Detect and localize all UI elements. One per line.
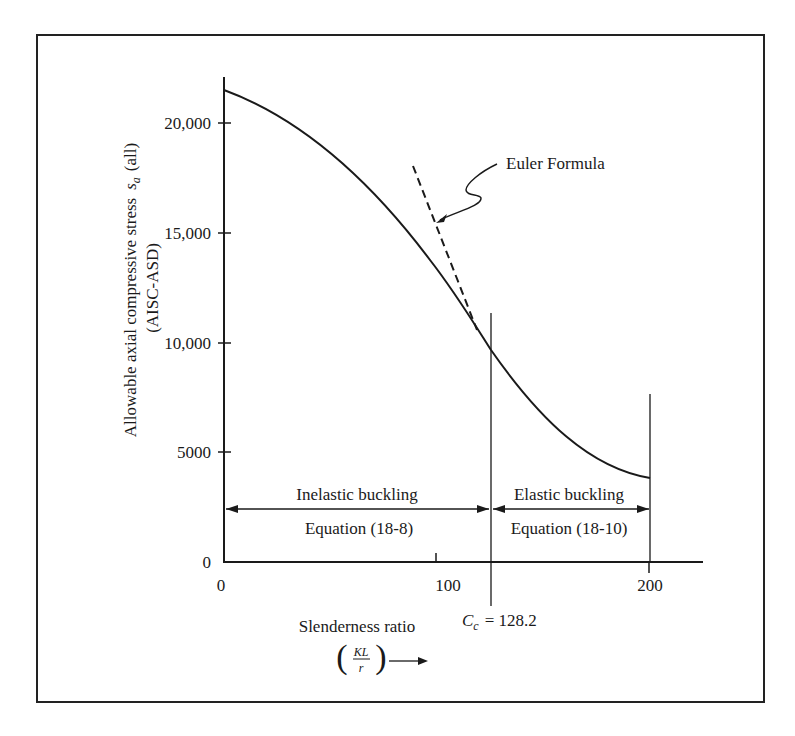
svg-text:r: r: [359, 661, 364, 675]
euler-curve-dashed: [413, 166, 477, 330]
x-direction-arrow: [389, 657, 428, 665]
figure-frame: [37, 35, 764, 702]
svg-text:): ): [375, 638, 386, 676]
cc-label: Cc= 128.2: [462, 611, 537, 633]
x-axis-title: Slenderness ratio: [299, 617, 416, 636]
axes: [223, 77, 703, 563]
euler-formula-label: Euler Formula: [506, 154, 605, 173]
inelastic-buckling-label: Inelastic buckling: [296, 485, 418, 504]
elastic-range-arrow: [493, 505, 649, 513]
y-tick-label-20000: 20,000: [164, 114, 211, 133]
y-axis-subtitle: (AISC-ASD): [143, 243, 162, 333]
elastic-equation-label: Equation (18-10): [511, 519, 628, 538]
svg-text:KL: KL: [353, 645, 369, 659]
allowable-stress-curve: [224, 90, 650, 478]
inelastic-equation-label: Equation (18-8): [305, 519, 413, 538]
elastic-buckling-label: Elastic buckling: [514, 485, 625, 504]
x-tick-label-100: 100: [435, 576, 461, 595]
y-tick-label-0: 0: [203, 553, 212, 572]
svg-text:(: (: [336, 638, 347, 676]
kl-over-r-formula: ( KL r ): [336, 638, 386, 676]
y-axis-title: Allowable axial compressive stresssa(all…: [121, 143, 143, 437]
y-tick-label-15000: 15,000: [164, 224, 211, 243]
y-tick-label-5000: 5000: [177, 443, 211, 462]
x-tick-label-0: 0: [217, 576, 226, 595]
y-tick-label-10000: 10,000: [164, 334, 211, 353]
inelastic-range-arrow: [226, 505, 489, 513]
column-buckling-chart: 20,000 15,000 10,000 5000 0 0 100 200 Eu…: [0, 0, 795, 736]
euler-pointer-arrowhead: [436, 214, 447, 223]
x-tick-label-200: 200: [637, 576, 663, 595]
euler-pointer-squiggle: [440, 164, 497, 220]
